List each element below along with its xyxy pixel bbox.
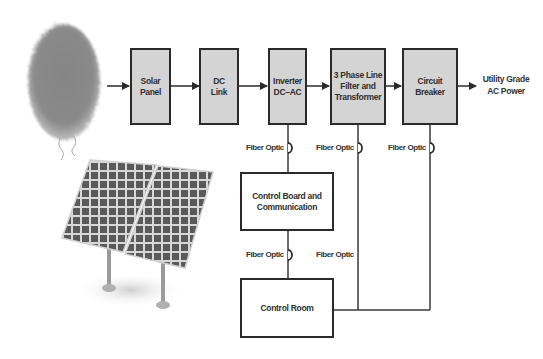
sun-illustration	[28, 24, 100, 160]
fiber-optic-label-inverter: Fiber Optic	[246, 143, 284, 152]
inverter-block: Inverter DC–AC	[268, 48, 307, 125]
fiber-optic-label-filter: Fiber Optic	[316, 143, 354, 152]
fiber-optic-label-breaker: Fiber Optic	[388, 143, 426, 152]
fiber-optic-label-filter-lower: Fiber Optic	[316, 250, 354, 259]
output-label: Utility Grade AC Power	[476, 73, 536, 97]
filter-transformer-block: 3 Phase Line Filter and Transformer	[330, 48, 386, 125]
filter-transformer-label: 3 Phase Line Filter and Transformer	[334, 70, 382, 103]
fiber-optic-label-control-board: Fiber Optic	[246, 250, 284, 259]
control-room-label: Control Room	[260, 303, 313, 314]
control-board-block: Control Board and Communication	[240, 172, 334, 231]
solar-panel-block: Solar Panel	[130, 48, 171, 125]
circuit-breaker-block: Circuit Breaker	[402, 48, 458, 125]
solar-panel-illustration	[62, 160, 213, 309]
control-room-block: Control Room	[240, 278, 334, 338]
dc-link-label: DC Link	[211, 76, 227, 98]
dc-link-block: DC Link	[199, 48, 239, 125]
solar-system-diagram: Solar Panel DC Link Inverter DC–AC 3 Pha…	[0, 0, 543, 359]
control-board-label: Control Board and Communication	[252, 191, 322, 213]
solar-panel-label: Solar Panel	[140, 76, 161, 98]
inverter-label: Inverter DC–AC	[273, 76, 302, 98]
circuit-breaker-label: Circuit Breaker	[415, 76, 445, 98]
